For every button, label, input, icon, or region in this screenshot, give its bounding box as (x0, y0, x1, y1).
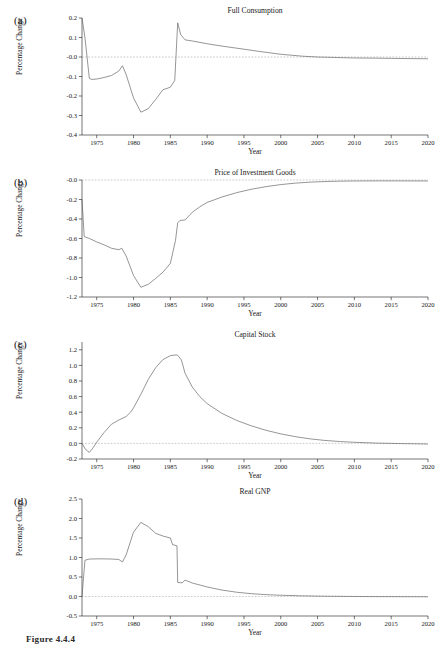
y-tick-label: -1.0 (67, 274, 78, 281)
y-tick-label: -0.8 (67, 254, 78, 261)
x-tick-label: 1975 (90, 463, 104, 470)
x-tick-label: 1995 (237, 463, 251, 470)
x-tick-label: 1990 (201, 139, 215, 146)
x-tick-label: 1980 (127, 463, 141, 470)
x-tick-label: 2010 (348, 301, 362, 308)
y-tick-label: 0.5 (69, 573, 78, 580)
x-tick-label: 1980 (127, 620, 141, 627)
y-tick-label: 0.8 (69, 377, 78, 384)
x-tick-label: 2000 (274, 301, 288, 308)
y-tick-label: -0.2 (67, 92, 77, 99)
x-tick-label: 1980 (127, 139, 141, 146)
chart-panel-d: (d) Real GNP Percentage Change Year 2.52… (0, 485, 448, 640)
y-tick-label: 0.6 (69, 393, 78, 400)
x-tick-label: 2000 (274, 620, 288, 627)
x-tick-label: 2015 (385, 620, 399, 627)
x-tick-label: 2000 (274, 139, 288, 146)
y-tick-label: -0.4 (67, 131, 78, 138)
x-tick-label: 2005 (311, 463, 325, 470)
data-series-line (82, 522, 428, 596)
y-tick-label: 1.0 (69, 554, 78, 561)
x-tick-label: 2015 (385, 301, 399, 308)
x-tick-label: 1995 (237, 301, 251, 308)
x-tick-label: 2020 (421, 463, 435, 470)
y-tick-label: 1.5 (69, 534, 78, 541)
x-tick-label: 1985 (164, 301, 178, 308)
y-tick-label: -0.3 (67, 112, 78, 119)
x-tick-label: 2015 (385, 139, 399, 146)
y-tick-label: -0.0 (67, 176, 78, 183)
y-tick-label: 0.0 (69, 440, 78, 447)
x-tick-label: 1985 (164, 139, 178, 146)
x-tick-label: 2000 (274, 463, 288, 470)
y-tick-label: -0.6 (67, 235, 78, 242)
data-series-line (82, 18, 428, 112)
y-tick-label: 0.2 (69, 14, 77, 21)
y-tick-label: 2.5 (69, 495, 78, 502)
x-tick-label: 2020 (421, 620, 435, 627)
chart-panel-b: (b) Price of Investment Goods Percentage… (0, 166, 448, 321)
y-tick-label: 0.1 (69, 34, 77, 41)
y-tick-label: -0.0 (67, 53, 78, 60)
y-tick-label: 0.2 (69, 424, 77, 431)
x-tick-label: 1975 (90, 620, 104, 627)
x-tick-label: 1985 (164, 620, 178, 627)
x-tick-label: 1995 (237, 620, 251, 627)
chart-panel-c: (c) Capital Stock Percentage Change Year… (0, 328, 448, 483)
y-tick-label: -0.2 (67, 455, 77, 462)
x-tick-label: 2010 (348, 463, 362, 470)
x-tick-label: 1975 (90, 301, 104, 308)
x-tick-label: 1980 (127, 301, 141, 308)
y-tick-label: 1.0 (69, 362, 78, 369)
x-tick-label: 2020 (421, 139, 435, 146)
data-series-line (82, 181, 428, 287)
plot-svg-d: 2.52.01.51.00.50.0-0.5197519801985199019… (0, 485, 448, 640)
y-tick-label: -0.1 (67, 73, 77, 80)
x-tick-label: 2005 (311, 139, 325, 146)
x-tick-label: 2005 (311, 620, 325, 627)
x-tick-label: 1990 (201, 620, 215, 627)
data-series-line (82, 355, 428, 453)
x-tick-label: 1985 (164, 463, 178, 470)
y-tick-label: 1.2 (69, 346, 77, 353)
y-tick-label: 0.4 (69, 409, 78, 416)
x-tick-label: 1990 (201, 301, 215, 308)
y-tick-label: 0.0 (69, 593, 78, 600)
x-tick-label: 2020 (421, 301, 435, 308)
x-tick-label: 2015 (385, 463, 399, 470)
figure-caption: Figure 4.4.4 (26, 634, 75, 644)
x-tick-label: 1975 (90, 139, 104, 146)
y-tick-label: -0.2 (67, 196, 77, 203)
y-tick-label: -0.4 (67, 215, 78, 222)
x-tick-label: 2010 (348, 620, 362, 627)
x-tick-label: 1995 (237, 139, 251, 146)
x-tick-label: 1990 (201, 463, 215, 470)
plot-svg-b: -0.0-0.2-0.4-0.6-0.8-1.0-1.2197519801985… (0, 166, 448, 321)
chart-panel-a: (a) Full Consumption Percentage Change Y… (0, 4, 448, 159)
x-tick-label: 2005 (311, 301, 325, 308)
plot-svg-a: 0.20.1-0.0-0.1-0.2-0.3-0.419751980198519… (0, 4, 448, 159)
plot-svg-c: 1.21.00.80.60.40.20.0-0.2197519801985199… (0, 328, 448, 483)
x-tick-label: 2010 (348, 139, 362, 146)
y-tick-label: -0.5 (67, 612, 78, 619)
y-tick-label: 2.0 (69, 515, 78, 522)
y-tick-label: -1.2 (67, 293, 77, 300)
